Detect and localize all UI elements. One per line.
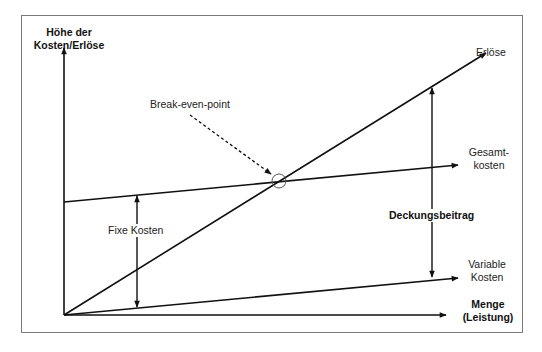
y-axis-label: Höhe der Kosten/Erlöse (14, 26, 124, 52)
x-axis-label-line1: Menge (460, 298, 516, 311)
break-even-label: Break-even-point (150, 98, 230, 111)
fixe-kosten-label: Fixe Kosten (106, 224, 165, 237)
y-axis-label-line2: Kosten/Erlöse (14, 39, 124, 52)
gesamtkosten-label-line1: Gesamt- (466, 146, 512, 159)
variable-kosten-line (64, 278, 458, 315)
variable-kosten-label: Variable Kosten (462, 258, 512, 284)
deckungsbeitrag-label: Deckungsbeitrag (387, 209, 476, 222)
gesamtkosten-label-line2: kosten (466, 159, 512, 172)
break-even-pointer (190, 115, 271, 174)
variable-kosten-label-line2: Kosten (462, 271, 512, 284)
x-axis-label-line2: (Leistung) (460, 311, 516, 324)
x-axis-label: Menge (Leistung) (460, 298, 516, 324)
variable-kosten-label-line1: Variable (462, 258, 512, 271)
gesamtkosten-line (64, 165, 458, 202)
erloese-line (64, 53, 486, 315)
y-axis-label-line1: Höhe der (14, 26, 124, 39)
erloese-label: Erlöse (476, 46, 506, 59)
gesamtkosten-label: Gesamt- kosten (466, 146, 512, 172)
